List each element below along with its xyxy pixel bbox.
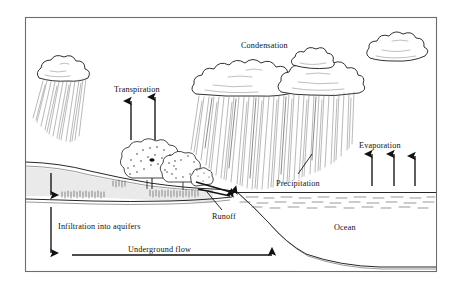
water-cycle-diagram: Condensation Transpiration Evaporation P… [0, 0, 457, 287]
label-ocean: Ocean [334, 223, 356, 232]
label-runoff: Runoff [212, 212, 236, 221]
label-condensation: Condensation [241, 41, 288, 50]
label-underground-flow: Underground flow [128, 245, 191, 254]
tree-hollow [149, 158, 154, 161]
label-evaporation: Evaporation [359, 141, 401, 150]
label-transpiration: Transpiration [114, 85, 160, 94]
label-precipitation: Precipitation [276, 179, 320, 188]
diagram-canvas: Condensation Transpiration Evaporation P… [0, 0, 457, 287]
label-infiltration: Infiltration into aquifers [58, 222, 141, 231]
